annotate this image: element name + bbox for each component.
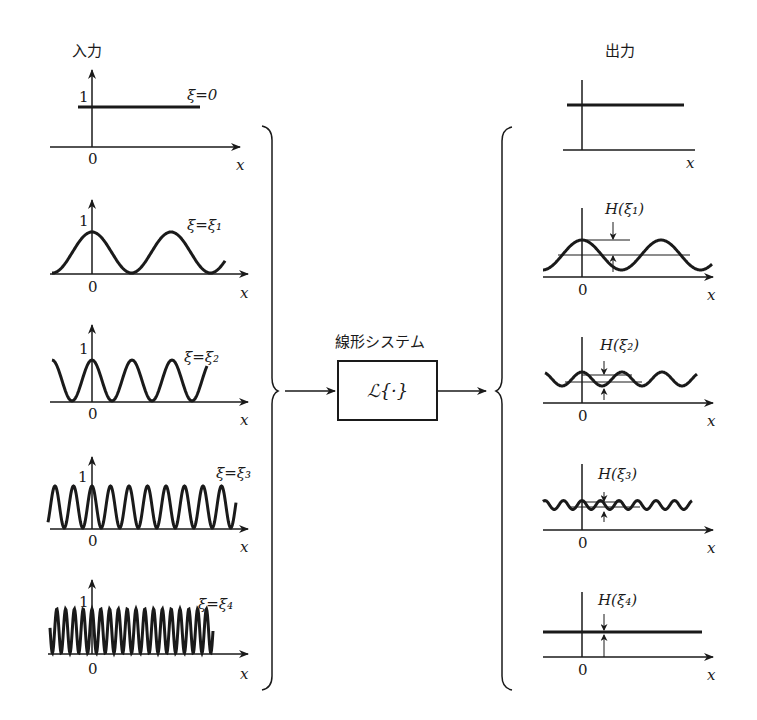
signal-cosine-2 [52,360,207,401]
x-axis-label: x [240,413,248,428]
output-panel-1 [543,208,713,277]
y-tick-1: 1 [78,470,88,485]
x-axis-label: x [240,540,248,555]
x-axis-label: x [707,414,715,429]
x-axis-label: x [240,286,248,301]
origin-label: 0 [88,534,98,549]
signal-cosine-1 [52,232,225,273]
linear-system-box: ℒ{·} [337,360,438,421]
y-tick-1: 1 [79,90,89,105]
signal-cosine-3 [48,486,236,528]
left-brace [262,126,278,690]
origin-label: 0 [88,662,98,677]
xi-label-3: ξ=ξ₃ [216,466,251,481]
x-axis-label: x [707,668,715,683]
y-tick-1: 1 [79,214,89,229]
x-axis-label: x [236,158,244,173]
h-label-2: H(ξ₂) [600,338,639,353]
origin-label: 0 [88,407,98,422]
right-brace [496,127,512,690]
output-panel-0 [563,80,695,150]
origin-label: 0 [88,152,98,167]
x-axis-label: x [707,288,715,303]
origin-label: 0 [578,283,588,298]
x-axis-label: x [686,156,694,171]
input-panel-0 [50,70,240,147]
xi-label-1: ξ=ξ₁ [187,218,222,233]
xi-label-2: ξ=ξ₂ [184,350,219,365]
origin-label: 0 [578,409,588,424]
origin-label: 0 [578,663,588,678]
xi-label-4: ξ=ξ₄ [198,597,233,612]
h-label-1: H(ξ₁) [605,202,644,217]
h-label-3: H(ξ₃) [598,467,637,482]
system-operator: ℒ{·} [367,380,409,401]
origin-label: 0 [88,280,98,295]
x-axis-label: x [707,541,715,556]
signal-cosine-4 [50,609,213,653]
system-title: 線形システム [335,335,425,350]
y-tick-1: 1 [79,342,89,357]
origin-label: 0 [578,536,588,551]
h-label-4: H(ξ₄) [598,593,637,608]
input-panel-4 [48,580,248,654]
y-tick-1: 1 [79,595,89,610]
xi-label-0: ξ=0 [187,88,217,103]
input-title: 入力 [72,44,102,59]
output-title: 出力 [605,44,635,59]
x-axis-label: x [240,667,248,682]
